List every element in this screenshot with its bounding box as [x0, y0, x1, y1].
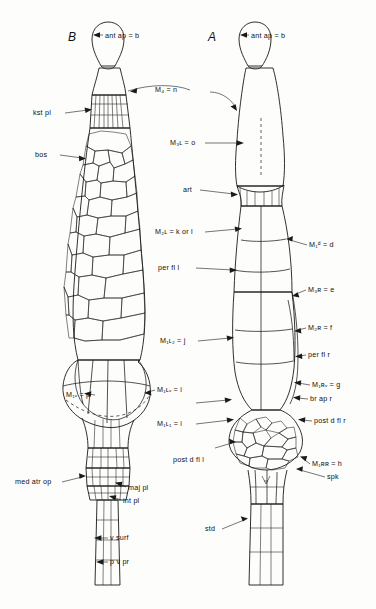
label-ant-ap-b-right: ant ap = b: [251, 31, 285, 40]
label-p-v-pr: p v pr: [110, 557, 129, 566]
label-v-surf: v surf: [110, 533, 129, 542]
label-m1l1-i: M₁ʟ₁ = i: [157, 419, 182, 428]
label-m1l2-j: M₁ʟ₂ = j: [160, 336, 186, 345]
label-m3r-e: M₃ʀ = e: [308, 285, 334, 294]
anatomical-line-drawing: [0, 0, 376, 609]
label-post-d-fl-l: post d fl l: [173, 455, 204, 464]
label-bos: bos: [35, 150, 47, 159]
label-br-ap-r: br ap r: [310, 394, 332, 403]
label-ant-ap-b-left: ant ap = b: [105, 31, 139, 40]
label-std: std: [205, 524, 215, 533]
figure-canvas: B A ant ap = b ant ap = b kst pl bos M₄ …: [0, 0, 376, 609]
label-med-atr-op: med atr op: [15, 477, 51, 486]
label-m-iv-p: M₁ᵥ = p: [66, 390, 90, 399]
panel-a-drawing: [229, 22, 302, 585]
label-m2r-f: M₂ʀ = f: [308, 323, 332, 332]
label-m1rv-g: M₁ʀᵥ = g: [312, 380, 340, 389]
label-per-fl-l: per fl l: [158, 263, 179, 272]
label-m1rr-h: M₁ʀʀ = h: [312, 459, 342, 468]
label-per-fl-r: per fl r: [308, 350, 330, 359]
label-post-d-fl-r: post d fl r: [314, 416, 346, 425]
label-spk: spk: [327, 472, 339, 481]
label-m3l-o: M₃ʟ = o: [170, 138, 195, 147]
label-m1d-d: M₁ᵈ = d: [309, 240, 334, 249]
label-maj-pl: maj pl: [128, 483, 148, 492]
panel-label-a: A: [208, 30, 216, 44]
label-int-pl: int pl: [123, 496, 139, 505]
label-kst-pl: kst pl: [33, 108, 51, 117]
label-art: art: [183, 185, 192, 194]
label-m2l-k-or-l: M₂ʟ = k or l: [155, 227, 193, 236]
panel-label-b: B: [68, 30, 76, 44]
label-m1lv-i: M₁ʟᵥ = i: [157, 385, 182, 394]
label-m4-n: M₄ = n: [155, 85, 177, 94]
